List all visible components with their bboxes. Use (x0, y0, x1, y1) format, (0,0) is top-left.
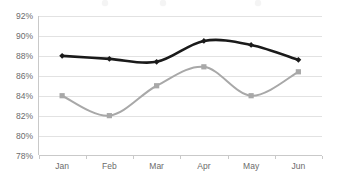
y-axis-tick-label: 82% (16, 111, 33, 121)
legend-marker-remnant (255, 0, 261, 6)
line-chart: 78%80%82%84%86%88%90%92% JanFebMarAprMay… (0, 0, 338, 183)
chart-canvas: 78%80%82%84%86%88%90%92% JanFebMarAprMay… (0, 0, 338, 183)
y-axis-tick-label: 86% (16, 71, 33, 81)
x-axis-tick-label: Mar (149, 161, 164, 171)
y-axis-tick-label: 80% (16, 131, 33, 141)
x-axis-tick-label: Apr (197, 161, 210, 171)
data-point-marker (201, 64, 206, 69)
x-axis-tick-label: Feb (102, 161, 117, 171)
x-axis-tick-label: May (243, 161, 260, 171)
legend-marker-remnant (160, 0, 166, 6)
y-axis-tick-label: 88% (16, 51, 33, 61)
x-axis-tick-label: Jan (55, 161, 69, 171)
y-axis-tick-label: 90% (16, 31, 33, 41)
y-axis-tick-label: 84% (16, 91, 33, 101)
legend-marker-remnant (102, 0, 108, 6)
y-axis-tick-label: 92% (16, 11, 33, 21)
data-point-marker (296, 69, 301, 74)
data-point-marker (107, 113, 112, 118)
data-point-marker (249, 93, 254, 98)
data-point-marker (154, 83, 159, 88)
y-axis-tick-label: 78% (16, 151, 33, 161)
x-axis-tick-label: Jun (292, 161, 306, 171)
data-point-marker (60, 93, 65, 98)
